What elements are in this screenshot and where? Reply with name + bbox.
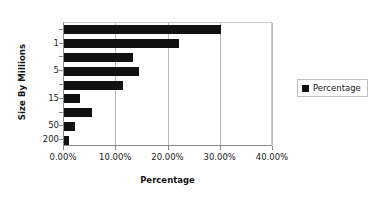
bar-row — [64, 136, 69, 145]
bar-row — [64, 81, 123, 90]
x-tick-label: 30.00% — [204, 152, 236, 162]
bar-percentage — [64, 53, 133, 62]
y-tickmark — [59, 112, 63, 113]
legend-label-percentage: Percentage — [313, 83, 361, 93]
x-tickmark — [272, 146, 273, 150]
bar-percentage — [64, 94, 80, 103]
bar-row — [64, 122, 75, 131]
y-tickmark — [59, 56, 63, 57]
legend-swatch-percentage — [302, 85, 309, 92]
y-tickmark — [59, 29, 63, 30]
bar-percentage — [64, 108, 92, 117]
x-tick-label: 0.00% — [49, 152, 76, 162]
y-tickmark — [59, 84, 63, 85]
y-tickmark — [59, 139, 63, 140]
chart-legend: Percentage — [297, 79, 368, 97]
x-tickmark — [115, 146, 116, 150]
x-tickmark — [220, 146, 221, 150]
y-tickmark — [59, 98, 63, 99]
y-tick-label: 200 — [43, 135, 59, 144]
x-axis-title: Percentage — [63, 175, 272, 185]
bar-row — [64, 108, 92, 117]
x-tickmark — [168, 146, 169, 150]
bar-chart: Size By Millions 151550200 Percentage Pe… — [0, 0, 391, 202]
plot-area — [63, 22, 272, 146]
y-axis-tick-labels: 151550200 — [30, 22, 61, 146]
y-tickmark — [59, 125, 63, 126]
y-tickmark — [59, 43, 63, 44]
bar-row — [64, 94, 80, 103]
bar-row — [64, 25, 221, 34]
x-tick-label: 20.00% — [151, 152, 183, 162]
y-axis-title-text: Size By Millions — [17, 44, 27, 120]
y-tick-label: 50 — [48, 121, 59, 130]
bar-row — [64, 39, 179, 48]
x-gridline — [272, 23, 273, 145]
x-tick-label: 40.00% — [256, 152, 288, 162]
y-tick-label: 15 — [48, 94, 59, 103]
bar-row — [64, 53, 133, 62]
x-gridline — [220, 23, 221, 145]
bar-percentage — [64, 81, 123, 90]
y-axis-title: Size By Millions — [14, 22, 30, 142]
x-tickmark — [63, 146, 64, 150]
bar-percentage — [64, 39, 179, 48]
bar-percentage — [64, 122, 75, 131]
bar-percentage — [64, 25, 221, 34]
x-tick-label: 10.00% — [99, 152, 131, 162]
y-tickmark — [59, 70, 63, 71]
bar-percentage — [64, 67, 139, 76]
bar-percentage — [64, 136, 69, 145]
bar-row — [64, 67, 139, 76]
